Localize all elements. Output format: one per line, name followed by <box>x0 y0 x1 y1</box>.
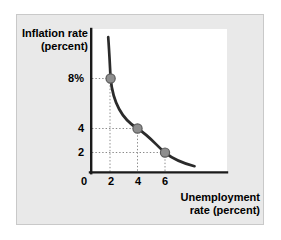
marker-point-b <box>133 124 142 133</box>
y-tick-label-8: 8% <box>56 72 84 84</box>
y-tick-label-4: 4 <box>56 122 84 134</box>
guide-lines <box>92 79 165 173</box>
x-axis-title: Unemployment rate (percent) <box>148 191 260 217</box>
marker-point-a <box>106 74 115 83</box>
x-tick-label-0: 0 <box>76 175 92 187</box>
phillips-curve-path <box>108 37 194 166</box>
y-tick-label-2: 2 <box>56 146 84 158</box>
y-axis-title: Inflation rate (percent) <box>18 27 88 53</box>
x-tick-label-2: 2 <box>103 175 119 187</box>
x-tick-label-4: 4 <box>130 175 146 187</box>
axes <box>90 29 227 173</box>
x-tick-label-6: 6 <box>157 175 173 187</box>
screenshot-root: Inflation rate (percent) Unemployment ra… <box>0 0 281 240</box>
data-point-markers <box>106 74 170 157</box>
marker-point-c <box>160 148 169 157</box>
